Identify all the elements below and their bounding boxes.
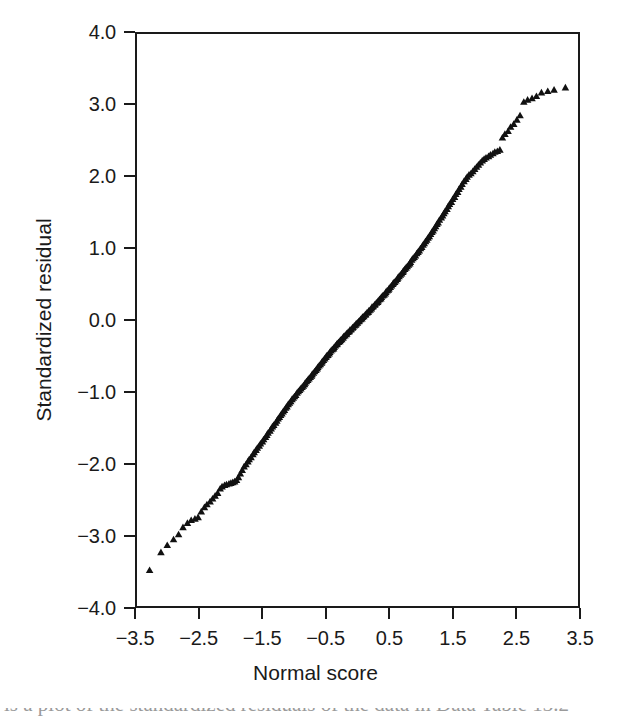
y-tick-mark — [124, 319, 135, 321]
x-tick-mark — [515, 608, 517, 619]
x-tick-label: −1.5 — [227, 628, 297, 648]
x-tick-mark — [325, 608, 327, 619]
x-tick-mark — [452, 608, 454, 619]
y-tick-label: 1.0 — [56, 238, 116, 258]
y-axis-title: Standardized residual — [32, 218, 56, 421]
clipped-caption-text: is a plot of the standardized residuals … — [4, 708, 569, 715]
x-tick-label: −3.5 — [100, 628, 170, 648]
y-tick-label: 4.0 — [56, 22, 116, 42]
x-axis-title: Normal score — [0, 661, 631, 685]
y-tick-mark — [124, 463, 135, 465]
y-tick-mark — [124, 535, 135, 537]
x-tick-label: −2.5 — [164, 628, 234, 648]
y-tick-label: 2.0 — [56, 166, 116, 186]
y-tick-mark — [124, 103, 135, 105]
x-tick-label: 2.5 — [481, 628, 551, 648]
x-tick-label: 3.5 — [545, 628, 615, 648]
x-tick-mark — [134, 608, 136, 619]
x-tick-mark — [388, 608, 390, 619]
y-tick-mark — [124, 31, 135, 33]
scatter-data-layer — [137, 34, 578, 606]
y-tick-label: 0.0 — [56, 310, 116, 330]
y-tick-mark — [124, 247, 135, 249]
data-points-group — [146, 84, 569, 573]
y-tick-label: −4.0 — [56, 598, 116, 618]
y-tick-mark — [124, 175, 135, 177]
x-tick-mark — [579, 608, 581, 619]
y-tick-label: −3.0 — [56, 526, 116, 546]
x-tick-label: 1.5 — [418, 628, 488, 648]
plot-area — [135, 32, 580, 608]
y-tick-label: −2.0 — [56, 454, 116, 474]
x-tick-mark — [261, 608, 263, 619]
y-tick-label: −1.0 — [56, 382, 116, 402]
y-tick-mark — [124, 391, 135, 393]
x-tick-label: −0.5 — [291, 628, 361, 648]
x-tick-mark — [198, 608, 200, 619]
clipped-caption-strip: is a plot of the standardized residuals … — [0, 708, 631, 724]
qq-plot-figure: Standardized residual 4.03.02.01.00.0−1.… — [0, 0, 631, 724]
y-tick-label: 3.0 — [56, 94, 116, 114]
x-tick-label: 0.5 — [354, 628, 424, 648]
